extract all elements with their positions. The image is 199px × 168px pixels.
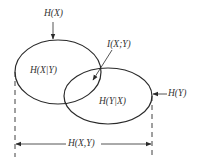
label-mutual-info: I(X;Y) <box>107 40 131 50</box>
label-joint: H(X,Y) <box>68 139 95 149</box>
label-hx: H(X) <box>44 9 63 19</box>
mutual-info-arrow <box>93 50 112 80</box>
diagram-graphics <box>0 0 199 168</box>
ellipse-x <box>15 40 101 104</box>
label-hy: H(Y) <box>168 89 186 99</box>
entropy-venn-diagram: H(X) H(X|Y) I(X;Y) H(Y|X) H(Y) H(X,Y) <box>0 0 199 168</box>
label-hx-given-y: H(X|Y) <box>30 66 57 76</box>
label-hy-given-x: H(Y|X) <box>99 97 126 107</box>
